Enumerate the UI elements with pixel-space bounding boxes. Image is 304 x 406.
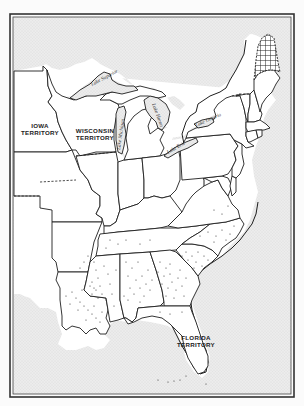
iowa-territory-label-1: IOWA: [31, 122, 49, 129]
florida-territory-label-2: TERRITORY: [177, 341, 216, 348]
wisconsin-territory-label-2: TERRITORY: [76, 134, 115, 141]
florida-territory-label-1: FLORIDA: [181, 334, 211, 341]
wisconsin-territory-label-1: WISCONSIN: [76, 127, 115, 134]
historical-map: IOWA TERRITORY WISCONSIN TERRITORY FLORI…: [0, 0, 304, 406]
iowa-territory-label-2: TERRITORY: [21, 129, 60, 136]
